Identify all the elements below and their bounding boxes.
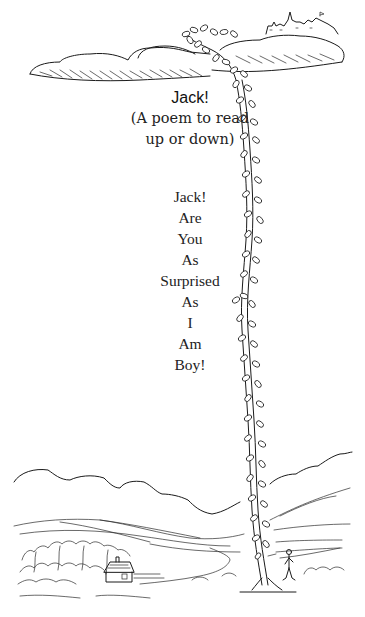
hills (14, 488, 350, 584)
sky-clouds (30, 35, 344, 81)
subtitle-line-2: up or down) (120, 129, 260, 150)
cottage (104, 557, 164, 582)
poem-line: Boy! (135, 354, 245, 375)
subtitle-line-1: (A poem to read (120, 108, 260, 129)
forest (18, 541, 150, 598)
poem-line: You (135, 228, 245, 249)
castle (266, 12, 338, 34)
poem-body: Jack! Are You As Surprised As I Am Boy! (135, 186, 245, 375)
poem-line: Jack! (135, 186, 245, 207)
poem-line: Are (135, 207, 245, 228)
poem-line: Surprised (135, 270, 245, 291)
poem-subtitle: (A poem to read up or down) (120, 108, 260, 150)
horizon-clouds (14, 452, 352, 514)
poem-line: I (135, 312, 245, 333)
poem-line: Am (135, 333, 245, 354)
boy-figure (268, 550, 295, 581)
poem-line: As (135, 249, 245, 270)
poem-line: As (135, 291, 245, 312)
poem-title: Jack! (140, 89, 240, 107)
